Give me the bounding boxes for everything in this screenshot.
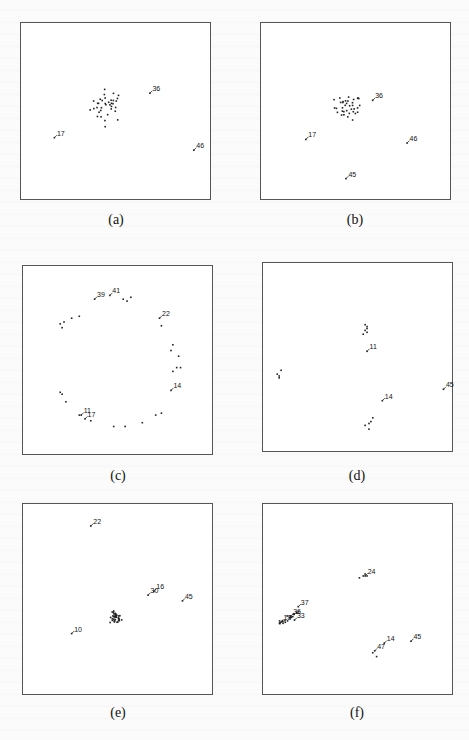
data-point xyxy=(362,575,364,577)
plot-frame xyxy=(263,504,453,695)
cluster-point xyxy=(113,93,115,95)
point-label-14: 14 xyxy=(173,382,181,389)
data-point xyxy=(122,298,124,300)
cluster-point xyxy=(109,104,111,106)
cluster-point xyxy=(104,94,106,96)
caption-e: (e) xyxy=(88,705,148,721)
data-point xyxy=(71,317,73,319)
data-point xyxy=(170,350,172,352)
data-point xyxy=(113,426,115,428)
cluster-point xyxy=(100,110,102,112)
cluster-point xyxy=(118,615,120,617)
cluster-point xyxy=(336,108,338,110)
cluster-point xyxy=(355,113,357,115)
data-point xyxy=(124,426,126,428)
cluster-point xyxy=(349,113,351,115)
data-point xyxy=(278,377,280,379)
cluster-point xyxy=(113,610,115,612)
cluster-point xyxy=(110,108,112,110)
cluster-point xyxy=(119,620,121,622)
point-label-47: 47 xyxy=(377,643,385,650)
cluster-point xyxy=(357,107,359,109)
point-label-14: 14 xyxy=(387,635,395,642)
cluster-point xyxy=(346,103,348,105)
cluster-point xyxy=(349,105,351,107)
cluster-point xyxy=(96,107,98,109)
cluster-point xyxy=(342,102,344,104)
plot-frame xyxy=(263,263,453,452)
caption-b: (b) xyxy=(325,212,385,228)
cluster-point xyxy=(340,102,342,104)
point-label-17: 17 xyxy=(57,130,65,137)
cluster-point xyxy=(352,105,354,107)
point-label-33: 33 xyxy=(297,612,305,619)
scatter-panel-a: 361746 xyxy=(20,22,211,200)
cluster-point xyxy=(345,100,347,102)
data-point xyxy=(176,367,178,369)
cluster-point xyxy=(112,620,114,622)
point-label-14: 14 xyxy=(385,393,393,400)
point-label-39: 39 xyxy=(97,291,105,298)
cluster-point xyxy=(339,97,341,99)
data-point xyxy=(370,421,372,423)
data-point xyxy=(368,423,370,425)
cluster-point xyxy=(342,110,344,112)
cluster-point xyxy=(347,100,349,102)
cluster-point xyxy=(282,622,284,624)
cluster-point xyxy=(359,105,361,107)
data-point xyxy=(364,330,366,332)
cluster-point xyxy=(104,89,106,91)
data-point xyxy=(372,417,374,419)
data-point xyxy=(79,316,81,318)
cluster-point xyxy=(343,111,345,113)
data-point xyxy=(359,577,361,579)
data-point xyxy=(366,575,368,577)
cluster-point xyxy=(113,100,115,102)
cluster-point xyxy=(113,616,115,618)
data-point xyxy=(364,324,366,326)
point-label-24: 24 xyxy=(368,568,376,575)
cluster-point xyxy=(104,120,106,122)
cluster-point xyxy=(348,96,350,98)
cluster-point xyxy=(346,110,348,112)
point-label-46: 46 xyxy=(410,135,418,142)
cluster-point xyxy=(110,617,112,619)
cluster-point xyxy=(115,616,117,618)
point-label-10: 10 xyxy=(74,626,82,633)
point-label-45: 45 xyxy=(348,171,356,178)
cluster-point xyxy=(357,97,359,99)
cluster-point xyxy=(341,114,343,116)
data-point xyxy=(59,323,61,325)
cluster-point xyxy=(334,107,336,109)
cluster-point xyxy=(110,99,112,101)
data-point xyxy=(65,401,67,403)
cluster-point xyxy=(279,620,281,622)
data-point xyxy=(61,393,63,395)
cluster-point xyxy=(118,617,120,619)
data-point xyxy=(376,656,378,658)
cluster-point xyxy=(352,102,354,104)
point-label-17: 17 xyxy=(308,131,316,138)
cluster-point xyxy=(117,119,119,121)
cluster-point xyxy=(347,116,349,118)
data-point xyxy=(276,373,278,375)
cluster-point xyxy=(100,116,102,118)
point-label-22: 22 xyxy=(162,310,170,317)
cluster-point xyxy=(115,613,117,615)
cluster-point xyxy=(114,621,116,623)
cluster-point xyxy=(93,100,95,102)
data-point xyxy=(142,422,144,424)
cluster-point xyxy=(342,107,344,109)
cluster-point xyxy=(97,103,99,105)
caption-c: (c) xyxy=(88,468,148,484)
point-label-46: 46 xyxy=(196,142,204,149)
point-label-37: 37 xyxy=(301,599,309,606)
cluster-point xyxy=(111,611,113,613)
data-point xyxy=(61,327,63,329)
cluster-point xyxy=(113,618,115,620)
scatter-panel-b: 36174645 xyxy=(260,22,451,200)
data-point xyxy=(155,414,157,416)
point-label-18: 18 xyxy=(284,614,292,621)
point-label-45: 45 xyxy=(446,381,454,388)
data-point xyxy=(126,300,128,302)
